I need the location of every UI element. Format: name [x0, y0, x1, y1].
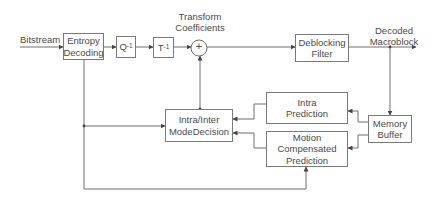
- deblocking-filter-block: DeblockingFilter: [295, 34, 349, 62]
- mem-line1: Memory: [373, 118, 407, 129]
- transform-coefficients-label: TransformCoefficients: [160, 11, 240, 33]
- intra-to-mode-arrow: [233, 104, 266, 119]
- intra-prediction-block: IntraPrediction: [266, 92, 348, 124]
- memory-to-intra-arrow: [348, 111, 368, 122]
- q-sup: -1: [127, 42, 133, 49]
- inverse-quantization-block: Q-1: [116, 36, 136, 58]
- mc-line2: Compensated: [277, 143, 336, 154]
- q-base: Q: [119, 41, 126, 52]
- mode-line2: ModeDecision: [169, 126, 229, 137]
- mc-to-mode-arrow: [233, 133, 266, 148]
- t-sup: -1: [164, 43, 170, 50]
- deblock-line1: Deblocking: [299, 37, 346, 48]
- entropy-line2: Decoding: [63, 47, 103, 58]
- mem-line2: Buffer: [377, 129, 402, 140]
- mode-decision-block: Intra/InterModeDecision: [165, 109, 233, 142]
- tc-line2: Coefficients: [175, 22, 224, 33]
- out-line1: Decoded: [375, 25, 413, 36]
- mode-line1: Intra/Inter: [179, 114, 220, 125]
- intra-line2: Prediction: [286, 108, 328, 119]
- adder-symbol: +: [193, 41, 205, 52]
- motion-compensated-prediction-block: MotionCompensatedPrediction: [266, 131, 348, 167]
- inverse-transform-block: T-1: [153, 37, 174, 58]
- deblock-line2: Filter: [311, 48, 332, 59]
- entropy-decoding-block: EntropyDecoding: [63, 33, 104, 60]
- bitstream-label: Bitstream: [20, 34, 60, 45]
- t-base: T: [158, 42, 164, 53]
- entropy-line1: Entropy: [67, 35, 100, 46]
- mc-line1: Motion: [293, 132, 322, 143]
- intra-line1: Intra: [297, 97, 316, 108]
- out-line2: Macroblock: [370, 36, 419, 47]
- decoder-block-diagram: Bitstream EntropyDecoding Q-1 T-1 + Tran…: [0, 0, 444, 199]
- memory-to-mc-arrow: [348, 135, 368, 148]
- tc-line1: Transform: [179, 11, 222, 22]
- memory-buffer-block: MemoryBuffer: [368, 115, 412, 143]
- mc-line3: Prediction: [286, 155, 328, 166]
- side-info-to-mc-arrow: [84, 167, 306, 189]
- decoded-macroblock-label: DecodedMacroblock: [364, 25, 424, 47]
